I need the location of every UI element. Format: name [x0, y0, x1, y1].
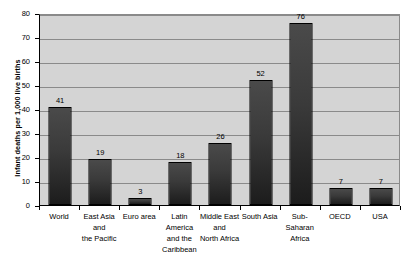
x-tick-mark [400, 206, 401, 210]
bar-column: 76 [281, 15, 321, 205]
bar[interactable] [89, 159, 112, 205]
y-axis-title: Infant deaths per 1,000 live births [12, 18, 24, 218]
x-tick-mark [119, 206, 120, 210]
bar[interactable] [129, 198, 152, 205]
x-tick-mark [159, 206, 160, 210]
y-tick-label: 0 [0, 202, 30, 210]
bar-value-label: 52 [256, 69, 264, 78]
bar-value-label: 7 [379, 177, 383, 186]
bar-column: 19 [80, 15, 120, 205]
bar-column: 3 [120, 15, 160, 205]
x-category-label: Middle East and North Africa [199, 211, 239, 244]
bar-chart: Infant deaths per 1,000 live births 0102… [0, 0, 415, 263]
bar[interactable] [289, 23, 312, 205]
bar-value-label: 41 [56, 96, 64, 105]
x-tick-mark [320, 206, 321, 210]
x-category-label: Latin America and the Caribbean [159, 211, 199, 255]
bar-value-label: 18 [176, 151, 184, 160]
bar[interactable] [49, 107, 72, 205]
x-tick-mark [360, 206, 361, 210]
bar-value-label: 3 [138, 187, 142, 196]
x-category-label: World [39, 211, 79, 222]
x-category-label: OECD [320, 211, 360, 222]
bar-column: 7 [361, 15, 401, 205]
y-tick-label: 20 [0, 154, 30, 162]
plot-area: 411931826527677 [39, 14, 400, 206]
x-tick-mark [199, 206, 200, 210]
y-tick-label: 80 [0, 10, 30, 18]
bar-column: 26 [200, 15, 240, 205]
bar-column: 41 [40, 15, 80, 205]
x-tick-mark [39, 206, 40, 210]
bar[interactable] [329, 188, 352, 205]
bar-value-label: 26 [216, 132, 224, 141]
x-category-label: Euro area [119, 211, 159, 222]
x-category-label: East Asia and the Pacific [79, 211, 119, 244]
y-tick-label: 30 [0, 130, 30, 138]
y-tick-label: 40 [0, 106, 30, 114]
y-tick-label: 70 [0, 34, 30, 42]
x-tick-mark [280, 206, 281, 210]
bar[interactable] [369, 188, 392, 205]
bar-value-label: 19 [96, 148, 104, 157]
y-tick-label: 60 [0, 58, 30, 66]
x-category-label: Sub-Saharan Africa [280, 211, 320, 244]
bar-value-label: 76 [297, 12, 305, 21]
x-category-label: USA [360, 211, 400, 222]
bar[interactable] [249, 80, 272, 205]
bar-value-label: 7 [339, 177, 343, 186]
x-tick-mark [79, 206, 80, 210]
bar[interactable] [209, 143, 232, 205]
bar-column: 52 [241, 15, 281, 205]
bar-column: 18 [160, 15, 200, 205]
x-tick-mark [240, 206, 241, 210]
x-category-label: South Asia [240, 211, 280, 222]
bar-column: 7 [321, 15, 361, 205]
y-tick-label: 50 [0, 82, 30, 90]
bar[interactable] [169, 162, 192, 205]
y-tick-label: 10 [0, 178, 30, 186]
